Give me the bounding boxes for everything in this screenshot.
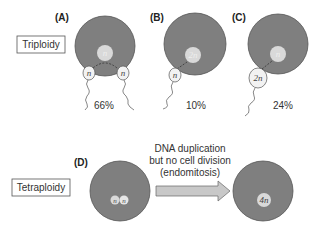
- sperm-label: n: [173, 70, 178, 80]
- sperm-tail: [163, 82, 173, 109]
- panel-b-percent: 10%: [186, 100, 206, 111]
- ploidy-diagram: Triploidy Tetraploidy (A) n n n 66% (B) …: [0, 0, 321, 231]
- panel-c-label: (C): [232, 12, 246, 23]
- arrow-line-2: but no cell division: [149, 155, 231, 166]
- nucleus-1-label: n: [113, 197, 117, 205]
- egg-nucleus-label: n: [276, 49, 281, 59]
- panel-b: (B) 2n n 10%: [150, 12, 226, 111]
- sperm-2-label: n: [121, 68, 126, 78]
- tetraploidy-label: Tetraploidy: [17, 182, 65, 193]
- panel-a-label: (A): [55, 12, 69, 23]
- nucleus-2-label: n: [122, 197, 126, 205]
- sperm-tail-2: [123, 80, 134, 110]
- sperm-label: 2n: [254, 73, 264, 83]
- panel-a: (A) n n n 66%: [55, 12, 135, 111]
- panel-c: (C) n 2n 24%: [232, 12, 308, 116]
- triploidy-label: Triploidy: [22, 39, 59, 50]
- triploidy-label-box: Triploidy: [17, 36, 65, 53]
- cell-after: [233, 161, 293, 221]
- egg-cell: [248, 14, 308, 74]
- arrow-line-3: (endomitosis): [160, 167, 220, 178]
- sperm-tail-1: [85, 80, 89, 110]
- tetraploidy-label-box: Tetraploidy: [12, 179, 70, 196]
- panel-b-label: (B): [150, 12, 164, 23]
- sperm-1-label: n: [87, 68, 92, 78]
- endomitosis-arrow: [156, 181, 230, 201]
- egg-nucleus-label: 2n: [189, 50, 199, 60]
- panel-d-label: (D): [74, 157, 88, 168]
- sperm-tail: [245, 88, 255, 116]
- panel-d: (D) n n DNA duplication but no cell divi…: [74, 143, 293, 221]
- egg-cell: [164, 13, 226, 75]
- panel-c-percent: 24%: [273, 100, 293, 111]
- arrow-line-1: DNA duplication: [154, 143, 225, 154]
- cell-before: [90, 161, 150, 221]
- egg-nucleus-label: n: [103, 48, 108, 58]
- nucleus-4n-label: 4n: [260, 195, 270, 205]
- panel-a-percent: 66%: [94, 100, 114, 111]
